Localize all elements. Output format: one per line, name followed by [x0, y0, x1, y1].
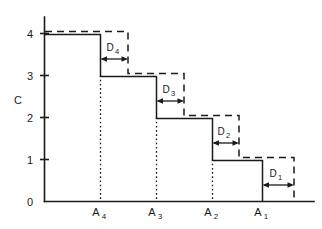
x-axis-label-a4: A 4 — [92, 206, 106, 221]
x-axis-label-a1-base: A — [254, 206, 262, 218]
dashed-staircase-series — [45, 32, 294, 202]
annotation-d3: D 3 — [157, 84, 185, 104]
y-tick-labels: 4 3 2 1 0 — [27, 28, 33, 208]
x-tick-labels: A 4 A 3 A 2 A 1 — [92, 206, 268, 221]
x-axis-label-a3: A 3 — [148, 206, 162, 221]
y-axis-title: C — [14, 94, 22, 106]
d3-arrow-head-left — [157, 98, 164, 104]
d1-label: D — [269, 168, 276, 179]
x-axis-label-a2-subscript: 2 — [214, 212, 219, 221]
d4-label-subscript: 4 — [115, 47, 119, 56]
y-axis-label-4: 4 — [27, 28, 33, 40]
step-function-chart: 4 3 2 1 0 C D 4 — [0, 0, 322, 229]
d3-label-subscript: 3 — [171, 89, 175, 98]
d2-arrow-head-left — [213, 140, 220, 146]
annotation-d2: D 2 — [213, 126, 240, 146]
d4-arrow-head-right — [122, 56, 129, 62]
x-axis-label-a3-base: A — [148, 206, 156, 218]
x-axis-label-a4-subscript: 4 — [102, 212, 107, 221]
x-axis-label-a1-subscript: 1 — [264, 212, 269, 221]
x-axis-label-a1: A 1 — [254, 206, 268, 221]
x-axis-label-a3-subscript: 3 — [158, 212, 163, 221]
solid-staircase-series — [45, 35, 263, 202]
d2-label: D — [217, 126, 224, 137]
chart-svg: 4 3 2 1 0 C D 4 — [0, 0, 322, 229]
d4-label: D — [106, 42, 113, 53]
d1-arrow-head-left — [263, 182, 270, 188]
annotation-d4: D 4 — [101, 42, 129, 62]
y-axis-label-1: 1 — [27, 154, 33, 166]
x-axis-label-a2: A 2 — [204, 206, 218, 221]
x-axis-label-a2-base: A — [204, 206, 212, 218]
d3-arrow-head-right — [178, 98, 185, 104]
d3-label: D — [162, 84, 169, 95]
d2-label-subscript: 2 — [226, 131, 230, 140]
annotation-d1: D 1 — [263, 168, 295, 188]
d4-arrow-head-left — [101, 56, 108, 62]
y-axis-label-2: 2 — [27, 112, 33, 124]
y-axis-label-3: 3 — [27, 70, 33, 82]
d2-arrow-head-right — [233, 140, 240, 146]
x-axis-label-a4-base: A — [92, 206, 100, 218]
d1-label-subscript: 1 — [278, 173, 282, 182]
d1-arrow-head-right — [288, 182, 295, 188]
y-axis-label-0: 0 — [27, 196, 33, 208]
